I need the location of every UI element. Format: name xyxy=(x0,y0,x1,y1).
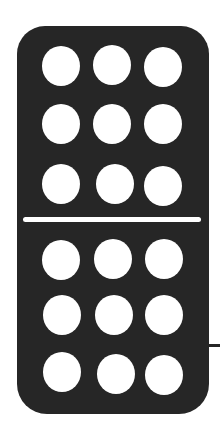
pip-bottom-6 xyxy=(145,295,183,335)
pip-bottom-3 xyxy=(145,239,183,279)
pip-top-5 xyxy=(93,104,131,144)
divider-line xyxy=(23,217,201,222)
pip-top-6 xyxy=(144,104,182,144)
pip-bottom-1 xyxy=(42,240,80,280)
edge-tick-mark xyxy=(209,344,220,347)
pip-bottom-9 xyxy=(145,355,183,395)
pip-top-7 xyxy=(42,164,80,204)
domino-tile xyxy=(17,26,209,414)
pip-top-9 xyxy=(144,166,182,206)
pip-top-8 xyxy=(96,164,134,204)
pip-top-1 xyxy=(42,46,80,86)
pip-bottom-5 xyxy=(95,295,133,335)
pip-top-4 xyxy=(42,104,80,144)
pip-bottom-8 xyxy=(97,354,135,394)
pip-bottom-2 xyxy=(94,239,132,279)
pip-bottom-4 xyxy=(43,295,81,335)
pip-top-3 xyxy=(144,47,182,87)
pip-bottom-7 xyxy=(43,352,81,392)
pip-top-2 xyxy=(93,45,131,85)
